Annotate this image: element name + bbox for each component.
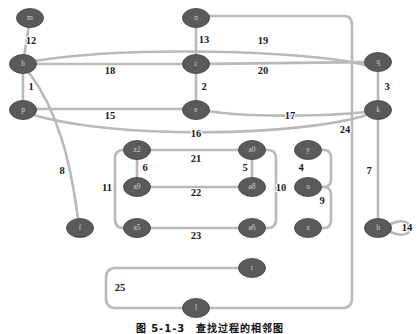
edge-weight-label: 19 — [258, 35, 269, 46]
edge-weight-label: 3 — [384, 81, 389, 92]
graph-node[interactable]: h — [365, 219, 392, 238]
graph-node[interactable]: a9 — [124, 178, 151, 197]
graph-node[interactable]: y — [295, 141, 322, 160]
graph-node[interactable]: m — [17, 9, 44, 28]
node-label: q — [376, 57, 380, 66]
node-label: a5 — [133, 223, 140, 232]
node-label: a9 — [133, 182, 140, 191]
node-label: z2 — [133, 145, 140, 154]
edge-weight-label: 13 — [199, 34, 210, 45]
figure-caption: 图 5-1-3 查找过程的相邻图 — [0, 322, 420, 334]
node-label: a0 — [248, 145, 255, 154]
graph-node[interactable]: n — [183, 9, 210, 28]
node-label: y — [306, 145, 310, 154]
graph-edge — [320, 150, 332, 187]
node-label: a6 — [248, 223, 255, 232]
edge-weight-label: 5 — [242, 162, 247, 173]
graph-edge — [106, 268, 240, 308]
graph-node[interactable]: c — [183, 55, 210, 74]
node-label: l — [195, 303, 197, 312]
edge-weight-label: 1 — [28, 81, 33, 92]
edge-weight-label: 18 — [105, 65, 116, 76]
graph-node[interactable]: a0 — [239, 141, 266, 160]
edge-weight-label: 14 — [402, 222, 413, 233]
edge-weight-label: 11 — [102, 182, 112, 193]
graph-node[interactable]: l — [183, 299, 210, 318]
node-label: a8 — [248, 182, 255, 191]
node-label: u — [306, 182, 310, 191]
edge-weight-label: 20 — [258, 65, 269, 76]
graph-node[interactable]: f — [67, 219, 94, 238]
edge-weight-label: 22 — [191, 187, 202, 198]
edges-layer — [23, 16, 410, 308]
edge-weight-label: 25 — [115, 282, 126, 293]
edge-labels-layer: 1234567891011121314151617181920212223242… — [26, 34, 413, 293]
node-label: k — [376, 105, 380, 114]
graph-node[interactable]: a8 — [239, 178, 266, 197]
edge-weight-label: 16 — [191, 128, 202, 139]
graph-node[interactable]: k — [365, 101, 392, 120]
edge-weight-label: 6 — [142, 162, 147, 173]
edge-weight-label: 9 — [319, 195, 324, 206]
graph-node[interactable]: a5 — [124, 219, 151, 238]
node-label: n — [194, 13, 198, 22]
graph-node[interactable]: x — [295, 219, 322, 238]
edge-weight-label: 24 — [340, 124, 351, 135]
edge-weight-label: 15 — [105, 110, 116, 121]
edge-weight-label: 12 — [26, 35, 37, 46]
edge-weight-label: 23 — [191, 230, 202, 241]
graph-node[interactable]: z2 — [124, 141, 151, 160]
graph-node[interactable]: b — [10, 55, 37, 74]
graph-edge — [208, 62, 365, 64]
graph-node[interactable]: p — [10, 101, 37, 120]
node-label: b — [21, 59, 25, 68]
graph-node[interactable]: r — [239, 259, 266, 278]
node-label: x — [306, 223, 310, 232]
graph-node[interactable]: u — [295, 178, 322, 197]
edge-weight-label: 21 — [191, 153, 202, 164]
graph-edge — [29, 73, 78, 219]
edge-weight-label: 7 — [366, 165, 371, 176]
edge-weight-label: 8 — [59, 165, 64, 176]
edge-weight-label: 17 — [285, 110, 296, 121]
graph-node[interactable]: a6 — [239, 219, 266, 238]
graph-node[interactable]: e — [183, 101, 210, 120]
node-label: m — [27, 13, 33, 22]
edge-weight-label: 4 — [298, 162, 304, 173]
node-label: h — [376, 223, 380, 232]
edge-weight-label: 2 — [201, 81, 206, 92]
edge-weight-label: 10 — [276, 182, 287, 193]
graph-edge — [320, 187, 332, 228]
node-label: p — [21, 105, 25, 114]
graph-node[interactable]: q — [365, 53, 392, 72]
